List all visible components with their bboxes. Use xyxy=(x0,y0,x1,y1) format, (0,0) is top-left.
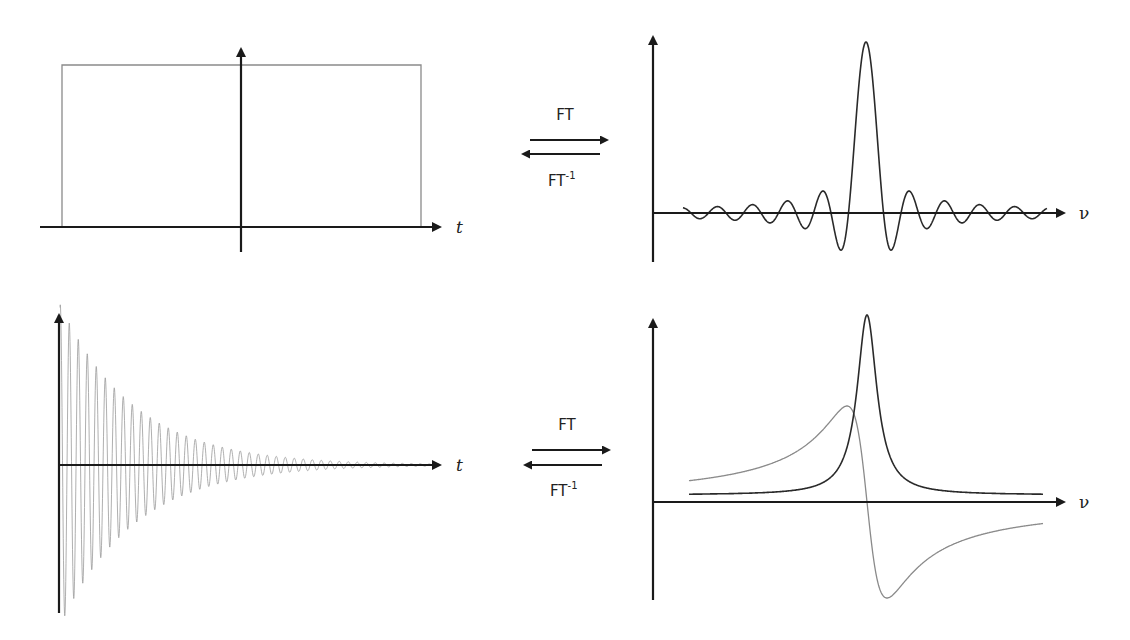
frequency-axis-label: ν xyxy=(1079,492,1089,512)
frequency-axis-label: ν xyxy=(1079,203,1089,223)
time-axis-label: t xyxy=(456,217,463,237)
lorentzian-panel: ν xyxy=(653,315,1089,600)
ft-label: FT xyxy=(556,106,574,124)
ft-arrows-bottom: FT FT-1 xyxy=(525,416,609,500)
rect-pulse-panel: t xyxy=(40,49,463,252)
fid-curve xyxy=(60,305,440,616)
figure-canvas: t FT FT-1 ν t FT FT-1 ν xyxy=(0,0,1130,640)
inverse-ft-label: FT-1 xyxy=(550,480,578,500)
time-axis-label: t xyxy=(456,455,463,475)
absorption-curve xyxy=(689,315,1043,494)
sinc-curve xyxy=(683,42,1047,250)
sinc-panel: ν xyxy=(653,37,1089,262)
inverse-ft-label: FT-1 xyxy=(548,170,576,190)
ft-label: FT xyxy=(558,416,576,434)
fid-panel: t xyxy=(59,305,463,616)
ft-arrows-top: FT FT-1 xyxy=(523,106,607,190)
